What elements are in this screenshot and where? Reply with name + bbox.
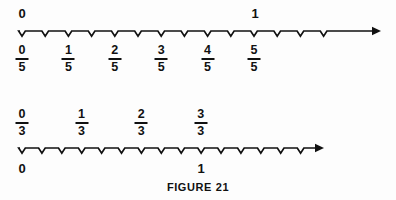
fraction-numerator: 3 [155, 44, 168, 57]
thirds-fraction-label-3: 33 [194, 108, 207, 138]
fifths-fraction-label-1: 15 [62, 44, 75, 74]
fifths-integer-label-0: 0 [18, 7, 25, 20]
fraction-denominator: 5 [155, 61, 168, 74]
arrowhead-icon [372, 27, 381, 35]
axis-with-tick-notches [19, 31, 372, 36]
fraction-denominator: 5 [16, 61, 29, 74]
fraction-numerator: 1 [62, 44, 75, 57]
fifths-fraction-label-4: 45 [201, 44, 214, 74]
fraction-numerator: 0 [16, 44, 29, 57]
fraction-denominator: 3 [75, 125, 88, 138]
fifths-fraction-label-3: 35 [155, 44, 168, 74]
thirds-fraction-label-0: 03 [16, 108, 29, 138]
fraction-denominator: 3 [16, 125, 29, 138]
fraction-denominator: 5 [201, 61, 214, 74]
axis-with-tick-notches [19, 148, 315, 153]
fraction-numerator: 4 [201, 44, 214, 57]
fraction-denominator: 5 [62, 61, 75, 74]
thirds-integer-label-0: 0 [18, 162, 25, 175]
arrowhead-icon [315, 144, 324, 152]
fifths-fraction-label-2: 25 [108, 44, 121, 74]
fraction-denominator: 3 [194, 125, 207, 138]
number-line-fifths-axis [19, 27, 381, 36]
number-line-thirds-axis [19, 144, 324, 153]
figure-caption: FIGURE 21 [0, 181, 396, 193]
fraction-numerator: 1 [75, 108, 88, 121]
fraction-denominator: 5 [108, 61, 121, 74]
thirds-fraction-label-2: 23 [135, 108, 148, 138]
fraction-denominator: 5 [248, 61, 261, 74]
fraction-numerator: 2 [108, 44, 121, 57]
fifths-integer-label-1: 1 [251, 7, 258, 20]
fifths-fraction-label-0: 05 [16, 44, 29, 74]
thirds-integer-label-1: 1 [197, 162, 204, 175]
thirds-fraction-label-1: 13 [75, 108, 88, 138]
fifths-fraction-label-5: 55 [248, 44, 261, 74]
fraction-numerator: 2 [135, 108, 148, 121]
fraction-numerator: 5 [248, 44, 261, 57]
fraction-numerator: 3 [194, 108, 207, 121]
fraction-numerator: 0 [16, 108, 29, 121]
figure-21: 010515253545550313233301 FIGURE 21 [0, 0, 396, 200]
fraction-denominator: 3 [135, 125, 148, 138]
